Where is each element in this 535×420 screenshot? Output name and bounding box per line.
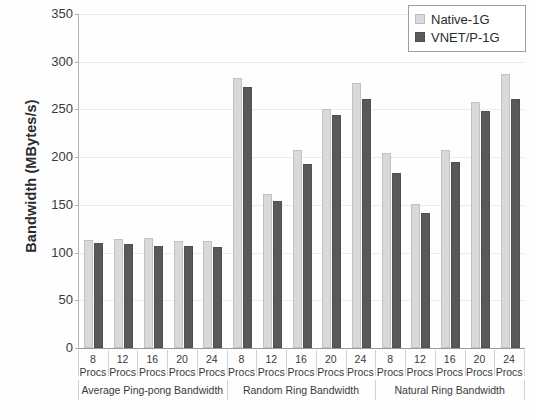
group-separator xyxy=(375,380,376,400)
group-label: Average Ping-pong Bandwidth xyxy=(78,384,227,396)
bar-vnetp xyxy=(124,244,133,348)
bar-native xyxy=(203,241,212,348)
bar-native xyxy=(84,240,93,348)
bar-vnetp xyxy=(332,115,341,348)
y-tick-label: 0 xyxy=(33,340,73,355)
bar-native xyxy=(144,238,153,348)
group-separator xyxy=(78,380,79,400)
legend-item-native[interactable]: Native-1G xyxy=(415,10,519,28)
bar-vnetp xyxy=(481,111,490,348)
y-tick-label: 250 xyxy=(33,101,73,116)
bar-vnetp xyxy=(362,99,371,348)
bar-vnetp xyxy=(451,162,460,348)
legend: Native-1G VNET/P-1G xyxy=(408,5,526,52)
bar-chart: Bandwidth (MBytes/s) 0501001502002503003… xyxy=(0,0,535,420)
y-tick-label: 50 xyxy=(33,292,73,307)
y-tick-label: 150 xyxy=(33,197,73,212)
x-tick-separator xyxy=(197,350,198,376)
plot-area xyxy=(78,14,525,349)
legend-swatch-icon-native xyxy=(415,14,425,24)
bar-vnetp xyxy=(213,247,222,348)
group-separator xyxy=(524,380,525,400)
bar-native xyxy=(501,74,510,348)
bar-native xyxy=(352,83,361,348)
x-tick-separator xyxy=(78,350,79,376)
bar-vnetp xyxy=(421,213,430,349)
x-tick-separator xyxy=(465,350,466,376)
x-tick-separator xyxy=(137,350,138,376)
bar-vnetp xyxy=(154,246,163,348)
x-tick-separator xyxy=(227,350,228,376)
bar-native xyxy=(263,194,272,348)
bar-native xyxy=(322,109,331,348)
y-tick-label: 350 xyxy=(33,6,73,21)
group-separator xyxy=(227,380,228,400)
x-tick-separator xyxy=(375,350,376,376)
bar-native xyxy=(411,204,420,348)
group-label: Natural Ring Bandwidth xyxy=(375,384,524,396)
bar-native xyxy=(174,241,183,348)
y-tick-mark xyxy=(75,348,79,349)
bar-vnetp xyxy=(94,243,103,348)
bar-vnetp xyxy=(243,87,252,348)
bar-vnetp xyxy=(303,164,312,348)
bar-native xyxy=(471,102,480,348)
bar-vnetp xyxy=(273,201,282,348)
bar-vnetp xyxy=(184,246,193,348)
legend-label-vnetp: VNET/P-1G xyxy=(431,30,500,45)
group-label: Random Ring Bandwidth xyxy=(227,384,376,396)
x-tick-separator xyxy=(494,350,495,376)
legend-swatch-icon-vnetp xyxy=(415,32,425,42)
y-tick-label: 300 xyxy=(33,54,73,69)
x-tick-separator xyxy=(524,350,525,376)
bar-native xyxy=(114,239,123,348)
y-tick-label: 200 xyxy=(33,149,73,164)
legend-label-native: Native-1G xyxy=(431,12,490,27)
legend-item-vnetp[interactable]: VNET/P-1G xyxy=(415,28,519,46)
bar-native xyxy=(293,150,302,348)
bar-native xyxy=(233,78,242,348)
bar-native xyxy=(382,153,391,348)
x-tick-separator xyxy=(405,350,406,376)
y-tick-label: 100 xyxy=(33,245,73,260)
bar-native xyxy=(441,150,450,348)
x-tick-separator xyxy=(286,350,287,376)
bar-vnetp xyxy=(511,99,520,348)
bars-layer xyxy=(79,14,525,348)
x-tick-separator xyxy=(256,350,257,376)
x-tick-separator xyxy=(435,350,436,376)
x-tick-separator xyxy=(316,350,317,376)
x-tick-separator xyxy=(167,350,168,376)
x-tick-separator xyxy=(108,350,109,376)
bar-vnetp xyxy=(392,173,401,348)
x-tick-separator xyxy=(346,350,347,376)
